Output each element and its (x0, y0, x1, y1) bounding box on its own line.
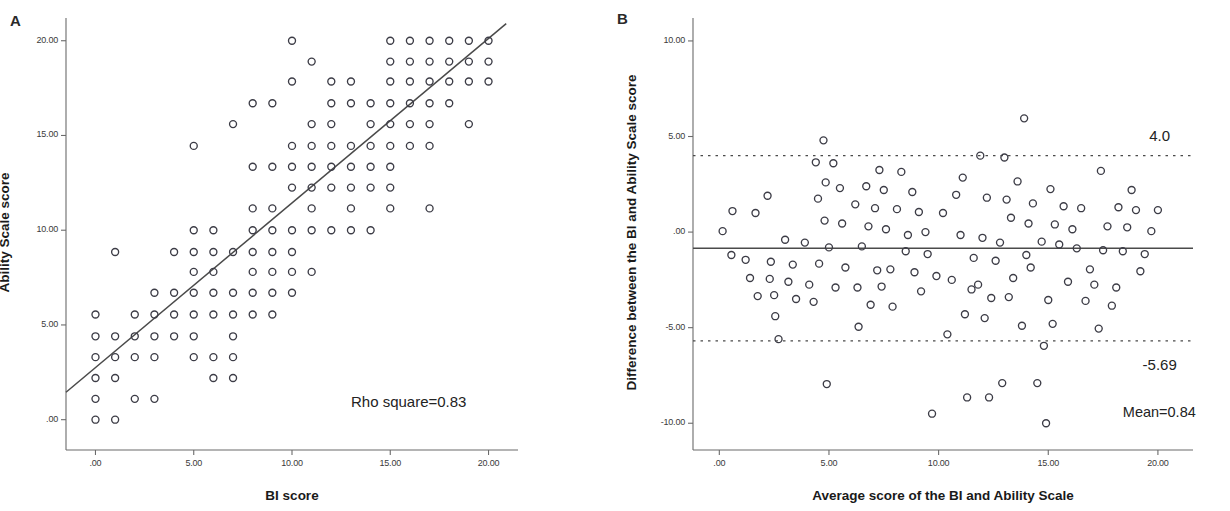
data-point (983, 194, 990, 201)
data-point (406, 142, 413, 149)
data-point (249, 163, 256, 170)
data-point (747, 274, 754, 281)
data-point (308, 58, 315, 65)
data-point (1038, 238, 1045, 245)
data-point (1097, 167, 1104, 174)
data-point (465, 58, 472, 65)
data-point (911, 269, 918, 276)
data-point (387, 163, 394, 170)
data-point (1124, 224, 1131, 231)
panel-b-y-tick-label: -10.00 (645, 417, 685, 427)
data-point (820, 137, 827, 144)
panel-b-x-tick-label: 15.00 (1023, 458, 1073, 468)
data-point (880, 187, 887, 194)
data-point (249, 249, 256, 256)
panel-a-x-tick-label: 15.00 (365, 458, 415, 468)
data-point (815, 195, 822, 202)
data-point (957, 231, 964, 238)
data-point (308, 121, 315, 128)
data-point (948, 276, 955, 283)
data-point (249, 268, 256, 275)
data-point (190, 249, 197, 256)
panel-b-y-tick-label: 10.00 (645, 35, 685, 45)
data-point (742, 256, 749, 263)
lower-limit-label: -5.69 (1143, 356, 1177, 373)
panel-a-y-tick-label: 20.00 (18, 35, 58, 45)
panel-a-x-tick-label: 20.00 (464, 458, 514, 468)
data-point (210, 354, 217, 361)
data-point (1113, 284, 1120, 291)
data-point (328, 121, 335, 128)
data-point (959, 174, 966, 181)
data-point (766, 275, 773, 282)
data-point (876, 166, 883, 173)
data-point (190, 289, 197, 296)
data-point (1027, 264, 1034, 271)
data-point (367, 227, 374, 234)
panel-a-y-tick-label: 5.00 (18, 319, 58, 329)
data-point (961, 311, 968, 318)
data-point (190, 311, 197, 318)
data-point (836, 185, 843, 192)
data-point (1040, 342, 1047, 349)
data-point (485, 78, 492, 85)
data-point (387, 205, 394, 212)
data-point (1034, 380, 1041, 387)
data-point (151, 333, 158, 340)
data-point (1104, 223, 1111, 230)
data-point (772, 313, 779, 320)
data-point (112, 375, 119, 382)
data-point (865, 223, 872, 230)
data-point (754, 293, 761, 300)
data-point (446, 37, 453, 44)
data-point (367, 100, 374, 107)
data-point (992, 257, 999, 264)
data-point (929, 410, 936, 417)
data-point (855, 323, 862, 330)
data-point (789, 261, 796, 268)
data-point (1051, 221, 1058, 228)
data-point (986, 394, 993, 401)
data-point (822, 179, 829, 186)
panel-b-plot-area (693, 18, 1193, 450)
data-point (979, 234, 986, 241)
data-point (328, 227, 335, 234)
data-point (1021, 115, 1028, 122)
panel-a-y-tick-label: 10.00 (18, 224, 58, 234)
data-point (915, 209, 922, 216)
panel-a-y-axis-title: Ability Scale score (0, 158, 12, 308)
data-point (289, 78, 296, 85)
data-point (249, 311, 256, 318)
data-point (387, 142, 394, 149)
data-point (92, 416, 99, 423)
data-point (816, 260, 823, 267)
data-point (882, 226, 889, 233)
data-point (801, 239, 808, 246)
panel-a-x-tick-label: 10.00 (267, 458, 317, 468)
data-point (1001, 154, 1008, 161)
data-point (918, 288, 925, 295)
data-point (269, 100, 276, 107)
data-point (981, 315, 988, 322)
data-point (347, 100, 354, 107)
data-point (249, 205, 256, 212)
data-point (1137, 268, 1144, 275)
data-point (387, 58, 394, 65)
data-point (940, 209, 947, 216)
data-point (1047, 186, 1054, 193)
data-point (719, 228, 726, 235)
data-point (269, 289, 276, 296)
data-point (1060, 203, 1067, 210)
data-point (830, 160, 837, 167)
data-point (465, 78, 472, 85)
data-point (1010, 274, 1017, 281)
data-point (874, 267, 881, 274)
data-point (933, 273, 940, 280)
data-point (964, 394, 971, 401)
panel-a-y-tick-label: 15.00 (18, 129, 58, 139)
data-point (230, 311, 237, 318)
data-point (426, 58, 433, 65)
data-point (1141, 251, 1148, 258)
data-point (1065, 278, 1072, 285)
data-point (367, 163, 374, 170)
